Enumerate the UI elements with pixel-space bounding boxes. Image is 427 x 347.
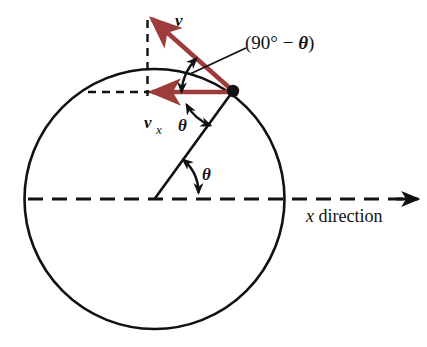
label-theta-upper: θ <box>178 116 187 135</box>
label-90-minus-theta-symbol: θ <box>298 32 308 53</box>
label-x-direction-symbol: x <box>305 206 314 226</box>
label-90-minus-theta-minus: − <box>278 32 298 53</box>
label-90-minus-theta-degree: ° <box>270 32 278 53</box>
label-x-direction: x direction <box>305 206 382 226</box>
label-velocity-vector-vx-subscript: x <box>155 122 162 137</box>
label-x-direction-word: direction <box>314 206 382 226</box>
contact-point-dot <box>227 85 239 97</box>
angle-arc-theta-upper <box>187 105 211 126</box>
diagram-canvas: v v x (90° − θ) θ θ x direction <box>0 0 427 347</box>
label-90-minus-theta-close: ) <box>308 32 314 54</box>
label-velocity-vector-vx: v <box>144 113 152 132</box>
radius-line <box>155 91 234 199</box>
label-theta-lower: θ <box>202 165 211 184</box>
label-90-minus-theta-open: (90 <box>245 32 270 54</box>
label-angle-90-minus-theta: (90° − θ) <box>245 32 314 54</box>
velocity-vector-v <box>152 19 233 91</box>
angle-arc-theta-lower <box>183 160 199 194</box>
label-velocity-vector-v: v <box>175 11 183 30</box>
figure-root: v v x (90° − θ) θ θ x direction <box>0 0 427 347</box>
